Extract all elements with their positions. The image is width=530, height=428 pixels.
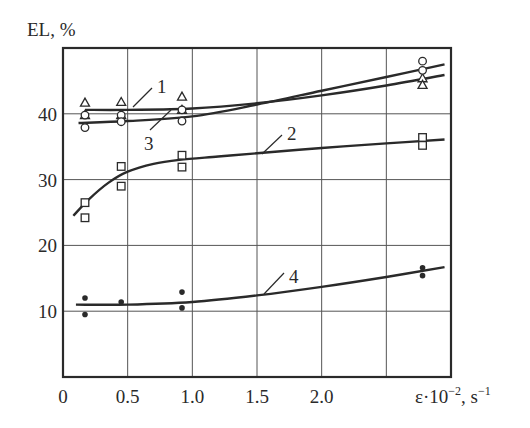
square-marker [178, 151, 186, 159]
x-tick-label: 0.5 [116, 386, 140, 407]
square-marker [81, 199, 89, 207]
x-tick-label: 1.0 [180, 386, 204, 407]
square-marker [81, 214, 89, 222]
dot-marker [82, 312, 88, 318]
dot-marker [420, 265, 426, 271]
square-marker [117, 163, 125, 171]
curve-label-2: 2 [287, 123, 297, 144]
dot-marker [179, 305, 185, 311]
square-marker [419, 142, 427, 150]
x-tick-label: 2.0 [310, 386, 334, 407]
square-marker [419, 134, 427, 142]
curve-label-1: 1 [157, 76, 167, 97]
curve-label-4: 4 [289, 266, 299, 287]
x-tick-label: 1.5 [245, 386, 269, 407]
curve-label-3: 3 [144, 133, 154, 154]
y-tick-labels: 10203040 [38, 104, 57, 322]
circle-marker [419, 67, 427, 75]
x-tick-labels: 00.51.01.52.0 [58, 386, 333, 407]
dot-marker [179, 289, 185, 295]
x-axis-label-exp2: −1 [478, 384, 491, 398]
circle-marker [81, 124, 89, 132]
curve-4 [76, 267, 445, 305]
dot-marker [82, 295, 88, 301]
curves [73, 64, 444, 304]
chart: 1234 00.51.01.52.0 10203040 EL, % ε·10−2… [0, 0, 530, 428]
x-tick-label: 0 [58, 386, 68, 407]
triangle-marker [177, 92, 186, 100]
triangle-marker [117, 97, 126, 105]
curve-2 [73, 139, 444, 215]
y-axis-label: EL, % [27, 19, 76, 40]
square-marker [178, 163, 186, 171]
dot-marker [118, 299, 124, 305]
x-axis-label-mid: , s [461, 386, 478, 407]
leader-line-4 [264, 273, 284, 294]
curve-1 [85, 75, 445, 110]
circle-marker [178, 117, 186, 125]
x-axis-label: ε·10−2, s−1 [415, 384, 491, 407]
circle-marker [81, 111, 89, 119]
x-axis-label-main: ε·10 [415, 386, 448, 407]
x-axis-label-exp1: −2 [448, 384, 461, 398]
y-tick-label: 30 [38, 170, 57, 191]
circle-marker [117, 118, 125, 126]
triangle-marker [80, 98, 89, 106]
y-tick-label: 20 [38, 235, 57, 256]
dot-marker [420, 273, 426, 279]
square-marker [117, 182, 125, 190]
circle-marker [419, 57, 427, 65]
y-tick-label: 40 [38, 104, 57, 125]
circle-marker [178, 106, 186, 114]
y-tick-label: 10 [38, 301, 57, 322]
leader-line-1 [133, 88, 152, 107]
